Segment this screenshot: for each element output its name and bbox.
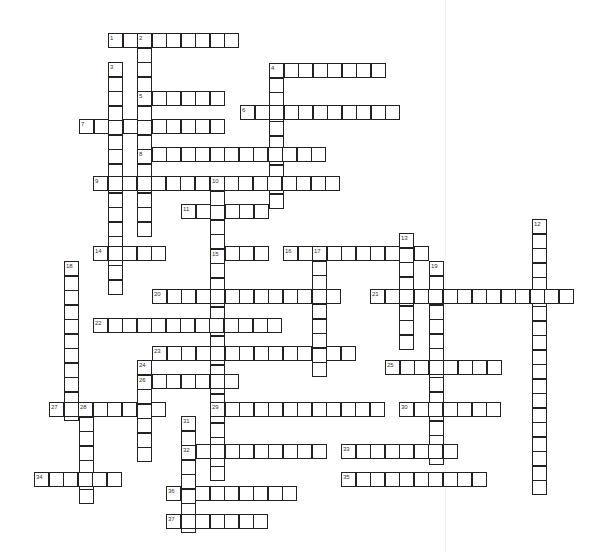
crossword-cell[interactable]: 9 xyxy=(93,176,108,191)
crossword-cell[interactable] xyxy=(108,207,123,222)
crossword-cell[interactable] xyxy=(137,207,152,222)
crossword-cell[interactable] xyxy=(487,360,502,375)
crossword-cell[interactable] xyxy=(239,346,254,361)
crossword-cell[interactable] xyxy=(239,246,254,261)
crossword-cell[interactable] xyxy=(180,318,195,333)
crossword-cell[interactable]: 19 xyxy=(429,261,444,276)
crossword-cell[interactable] xyxy=(210,466,225,481)
crossword-cell[interactable] xyxy=(166,91,181,106)
crossword-cell[interactable] xyxy=(356,444,371,459)
crossword-cell[interactable] xyxy=(268,147,283,162)
crossword-cell[interactable] xyxy=(108,193,123,208)
crossword-cell[interactable] xyxy=(210,289,225,304)
crossword-cell[interactable] xyxy=(532,350,547,365)
crossword-cell[interactable] xyxy=(532,480,547,495)
crossword-cell[interactable] xyxy=(530,289,545,304)
crossword-cell[interactable] xyxy=(64,377,79,392)
crossword-cell[interactable] xyxy=(326,402,341,417)
crossword-cell[interactable] xyxy=(108,91,123,106)
crossword-cell[interactable] xyxy=(167,289,182,304)
crossword-cell[interactable] xyxy=(385,289,400,304)
crossword-cell[interactable] xyxy=(108,318,123,333)
crossword-cell[interactable] xyxy=(152,91,167,106)
crossword-cell[interactable] xyxy=(532,234,547,249)
crossword-cell[interactable] xyxy=(283,346,298,361)
crossword-cell[interactable]: 23 xyxy=(152,346,167,361)
crossword-cell[interactable] xyxy=(341,346,356,361)
crossword-cell[interactable] xyxy=(312,289,327,304)
crossword-cell[interactable] xyxy=(428,289,443,304)
crossword-cell[interactable] xyxy=(283,289,298,304)
crossword-cell[interactable] xyxy=(195,374,210,389)
crossword-cell[interactable] xyxy=(210,220,225,235)
crossword-cell[interactable] xyxy=(532,379,547,394)
crossword-cell[interactable] xyxy=(458,360,473,375)
crossword-cell[interactable] xyxy=(429,334,444,349)
crossword-cell[interactable] xyxy=(181,91,196,106)
crossword-cell[interactable] xyxy=(108,265,123,280)
crossword-cell[interactable] xyxy=(181,346,196,361)
crossword-cell[interactable] xyxy=(224,374,239,389)
crossword-cell[interactable] xyxy=(486,289,501,304)
crossword-cell[interactable] xyxy=(181,119,196,134)
crossword-cell[interactable] xyxy=(137,246,152,261)
crossword-cell[interactable] xyxy=(224,176,239,191)
crossword-cell[interactable] xyxy=(224,33,239,48)
crossword-cell[interactable] xyxy=(297,346,312,361)
crossword-cell[interactable] xyxy=(181,474,196,489)
crossword-cell[interactable] xyxy=(210,191,225,206)
crossword-cell[interactable] xyxy=(532,451,547,466)
crossword-cell[interactable] xyxy=(210,33,225,48)
crossword-cell[interactable] xyxy=(122,402,137,417)
crossword-cell[interactable] xyxy=(181,460,196,475)
crossword-cell[interactable] xyxy=(356,246,371,261)
crossword-cell[interactable]: 14 xyxy=(93,246,108,261)
crossword-cell[interactable] xyxy=(239,486,254,501)
crossword-cell[interactable] xyxy=(137,120,152,135)
crossword-cell[interactable]: 15 xyxy=(210,249,225,264)
crossword-cell[interactable] xyxy=(312,304,327,319)
crossword-cell[interactable] xyxy=(443,444,458,459)
crossword-cell[interactable] xyxy=(195,119,210,134)
crossword-cell[interactable] xyxy=(79,489,94,504)
crossword-cell[interactable] xyxy=(385,472,400,487)
crossword-cell[interactable] xyxy=(253,318,268,333)
crossword-cell[interactable] xyxy=(428,402,443,417)
crossword-cell[interactable] xyxy=(282,486,297,501)
crossword-cell[interactable] xyxy=(371,105,386,120)
crossword-cell[interactable] xyxy=(151,318,166,333)
crossword-cell[interactable] xyxy=(123,119,138,134)
crossword-cell[interactable] xyxy=(108,77,123,92)
crossword-cell[interactable] xyxy=(370,472,385,487)
crossword-cell[interactable] xyxy=(559,289,574,304)
crossword-cell[interactable] xyxy=(167,346,182,361)
crossword-cell[interactable] xyxy=(428,444,443,459)
crossword-cell[interactable] xyxy=(327,105,342,120)
crossword-cell[interactable]: 1 xyxy=(108,33,123,48)
crossword-cell[interactable] xyxy=(79,431,94,446)
crossword-cell[interactable] xyxy=(501,289,516,304)
crossword-cell[interactable] xyxy=(107,402,122,417)
crossword-cell[interactable] xyxy=(313,105,328,120)
crossword-cell[interactable] xyxy=(108,120,123,135)
crossword-cell[interactable] xyxy=(151,176,166,191)
crossword-cell[interactable] xyxy=(225,246,240,261)
crossword-cell[interactable]: 29 xyxy=(210,402,225,417)
crossword-cell[interactable] xyxy=(152,33,167,48)
crossword-cell[interactable] xyxy=(92,472,107,487)
crossword-cell[interactable] xyxy=(166,33,181,48)
crossword-cell[interactable] xyxy=(64,402,79,417)
crossword-cell[interactable] xyxy=(195,318,210,333)
crossword-cell[interactable] xyxy=(181,289,196,304)
crossword-cell[interactable] xyxy=(532,466,547,481)
crossword-cell[interactable] xyxy=(298,63,313,78)
crossword-cell[interactable] xyxy=(64,363,79,378)
crossword-cell[interactable] xyxy=(137,318,152,333)
crossword-cell[interactable] xyxy=(79,446,94,461)
crossword-cell[interactable] xyxy=(457,402,472,417)
crossword-cell[interactable]: 18 xyxy=(64,261,79,276)
crossword-cell[interactable]: 26 xyxy=(137,375,152,390)
crossword-cell[interactable] xyxy=(122,176,137,191)
crossword-cell[interactable] xyxy=(298,246,313,261)
crossword-cell[interactable] xyxy=(195,176,210,191)
